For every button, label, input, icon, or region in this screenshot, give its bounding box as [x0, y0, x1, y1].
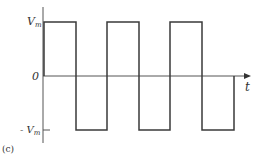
neg-vm-label: - Vm — [20, 124, 41, 137]
vm-label: Vm — [27, 15, 42, 29]
zero-label: 0 — [32, 70, 39, 83]
square-wave-diagram: Vm 0 - Vm t (c) — [0, 0, 257, 157]
x-axis-arrow-icon — [244, 73, 251, 79]
t-axis-label: t — [245, 80, 250, 94]
figure-caption: (c) — [2, 144, 14, 154]
